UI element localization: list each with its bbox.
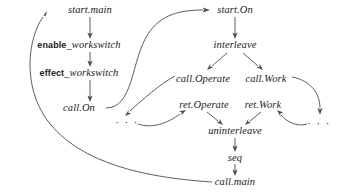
node-start-on[interactable]: start.On — [217, 5, 253, 16]
edge-start-main-to-enable — [87, 17, 92, 39]
node-call-work[interactable]: call.Work — [245, 74, 286, 85]
graph-edges — [0, 0, 341, 192]
edge-interleave-to-call-work — [243, 53, 263, 70]
node-call-operate[interactable]: call.Operate — [176, 74, 230, 85]
node-effect-keyword: effect — [40, 68, 65, 78]
node-interleave[interactable]: interleave — [214, 40, 257, 51]
edge-start-on-to-interleave — [232, 17, 237, 39]
node-call-main[interactable]: call.main — [215, 177, 255, 188]
node-uninterleave[interactable]: uninterleave — [208, 126, 262, 137]
node-effect-workswitch[interactable]: effect_workswitch — [40, 68, 119, 79]
node-ret-operate[interactable]: ret.Operate — [179, 100, 228, 111]
edge-call-work-to-ellipsis-right — [292, 77, 323, 115]
node-ellipsis-right: · · · — [307, 118, 331, 129]
node-start-main[interactable]: start.main — [68, 5, 112, 16]
edge-ret-operate-to-uninterleave — [207, 112, 223, 125]
diagram-canvas: start.main enable_workswitch effect_work… — [0, 0, 341, 192]
edge-enable-to-effect — [87, 52, 92, 67]
edge-effect-to-call-on — [87, 80, 92, 102]
edge-call-main-to-start-main — [30, 11, 212, 182]
node-enable-workswitch[interactable]: enable_workswitch — [37, 40, 120, 51]
node-call-on[interactable]: call.On — [63, 103, 95, 114]
edge-uninterleave-to-seq — [232, 138, 237, 152]
edge-ret-work-to-uninterleave — [245, 112, 261, 125]
edge-seq-to-call-main — [232, 164, 237, 176]
node-effect-suffix: _workswitch — [64, 67, 118, 78]
node-ret-work[interactable]: ret.Work — [245, 100, 281, 111]
edge-ellipsis-right-to-ret-work — [277, 110, 307, 125]
node-ellipsis-left: · · · — [115, 117, 139, 128]
edge-interleave-to-call-operate — [207, 53, 227, 70]
node-enable-keyword: enable — [37, 40, 66, 50]
edge-call-on-to-start-on — [106, 8, 210, 108]
edge-call-operate-to-ellipsis-left — [125, 76, 175, 116]
edge-ellipsis-left-to-ret-operate — [138, 110, 186, 126]
node-enable-suffix: _workswitch — [66, 39, 120, 50]
node-seq[interactable]: seq — [228, 153, 242, 164]
